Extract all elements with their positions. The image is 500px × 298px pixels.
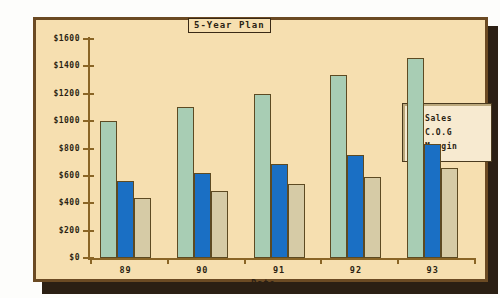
y-axis-tick (83, 175, 94, 177)
legend-label: Sales (425, 114, 452, 123)
x-axis-label-93: 93 (413, 265, 453, 275)
bar-sales-91 (254, 94, 271, 258)
x-axis-line (88, 258, 474, 260)
x-axis-tick (167, 258, 169, 264)
x-axis-label-89: 89 (106, 265, 146, 275)
x-axis-tick (320, 258, 322, 264)
y-axis-label: $600 (36, 171, 80, 180)
y-axis-tick (83, 230, 94, 232)
y-axis-tick (83, 93, 94, 95)
x-axis-label-91: 91 (259, 265, 299, 275)
bar-margin-92 (364, 177, 381, 258)
x-axis-tick (397, 258, 399, 264)
y-axis-label: $1200 (36, 89, 80, 98)
x-axis-tick (90, 258, 92, 264)
y-axis-tick (83, 65, 94, 67)
y-axis-tick (83, 120, 94, 122)
bar-cog-89 (117, 181, 134, 258)
bar-margin-91 (288, 184, 305, 258)
y-axis-label: $800 (36, 144, 80, 153)
bar-sales-92 (330, 75, 347, 258)
x-axis-tick (474, 258, 476, 264)
y-axis-label: $1000 (36, 116, 80, 125)
bar-cog-90 (194, 173, 211, 258)
x-axis-label-90: 90 (182, 265, 222, 275)
chart-panel: 5-Year Plan $0$200$400$600$800$1000$1200… (33, 17, 488, 282)
y-axis-label: $0 (36, 253, 80, 262)
bar-cog-91 (271, 164, 288, 258)
bar-margin-93 (441, 168, 458, 258)
bar-margin-89 (134, 198, 151, 258)
bar-cog-92 (347, 155, 364, 258)
y-axis-tick (83, 202, 94, 204)
y-axis-label: $200 (36, 226, 80, 235)
y-axis-tick (83, 38, 94, 40)
y-axis-label: $400 (36, 198, 80, 207)
y-axis-label: $1600 (36, 34, 80, 43)
y-axis-tick (83, 148, 94, 150)
x-axis-title: Date (36, 278, 491, 288)
bar-margin-90 (211, 191, 228, 258)
x-axis-label-92: 92 (336, 265, 376, 275)
y-axis-label: $1400 (36, 61, 80, 70)
bar-cog-93 (424, 144, 441, 258)
plot-area: $0$200$400$600$800$1000$1200$1400$1600 8… (36, 20, 491, 285)
bar-sales-93 (407, 58, 424, 258)
chart-screenshot: 5-Year Plan $0$200$400$600$800$1000$1200… (0, 0, 500, 298)
y-axis-tick (83, 257, 94, 259)
x-axis-tick (244, 258, 246, 264)
bar-sales-90 (177, 107, 194, 258)
bar-sales-89 (100, 121, 117, 258)
legend-label: C.O.G (425, 128, 452, 137)
